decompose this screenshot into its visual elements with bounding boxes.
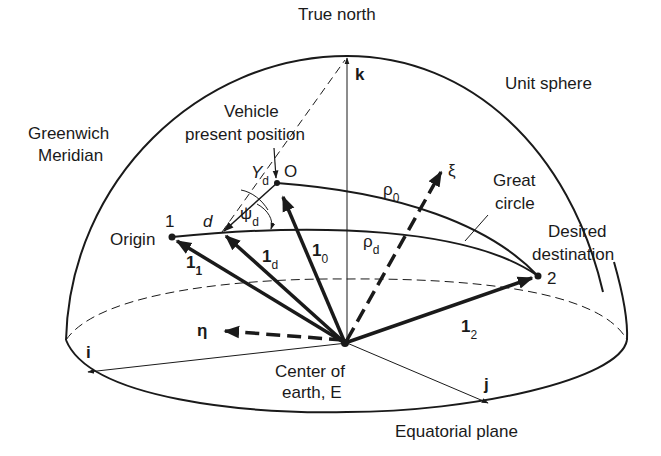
destination-point [535,273,542,280]
vehicle-label-line1: Vehicle [224,102,279,121]
eta-label: η [197,321,207,340]
psi-angle-label: ψd [240,204,259,229]
great-circle-label-line1: Great [493,171,536,190]
desired-destination-label-line1: Desired [548,222,607,241]
k-axis-label: k [355,65,365,84]
greenwich-label-line2: Meridian [38,146,103,165]
center-of-earth-label-line1: Center of [275,362,345,381]
present-position-o: O [284,162,297,181]
origin-number: 1 [165,212,174,231]
vehicle-label-line2: present position [185,125,305,144]
vector-1-0-label: 10 [312,241,328,266]
gamma-angle-label: Yd [251,163,269,188]
great-circle-diagram: True north Unit sphere Greenwich Meridia… [0,0,661,456]
equator-front [66,340,627,412]
j-axis [347,343,488,403]
true-north-label: True north [298,5,376,24]
origin-label: Origin [110,230,155,249]
rho-d-label: ρd [363,232,379,257]
xi-label: ξ [448,161,456,180]
vector-1-0 [283,197,345,343]
vector-1-2 [345,278,532,343]
unit-sphere-right-edge [614,262,627,340]
j-axis-label: j [483,375,489,394]
i-axis-label: i [86,343,91,362]
psi-angle-arc [257,204,272,229]
origin-point [169,234,176,241]
d-point-label: d [203,212,213,231]
center-point [341,339,349,347]
desired-destination-label-line2: destination [532,245,614,264]
destination-number: 2 [547,269,556,288]
vehicle-pointer [274,148,276,178]
equatorial-plane-label: Equatorial plane [395,422,518,441]
present-position-point [274,180,280,186]
unit-sphere-label: Unit sphere [505,74,592,93]
great-circle-label-line2: circle [495,194,535,213]
vector-1-2-label: 12 [461,317,477,342]
center-of-earth-label-line2: earth, E [282,383,342,402]
greenwich-label-line1: Greenwich [28,124,109,143]
